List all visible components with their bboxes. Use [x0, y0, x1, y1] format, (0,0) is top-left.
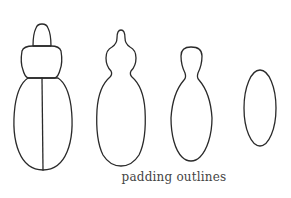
beetle-outline [14, 24, 72, 170]
padded-outline-2 [171, 47, 212, 161]
beetle-elytra-seam [42, 78, 43, 170]
padded-outline-1 [97, 30, 146, 166]
beetle-head [33, 24, 51, 46]
figure-caption: padding outlines [0, 170, 291, 184]
padding-outlines-figure [0, 0, 291, 198]
beetle-prothorax [21, 46, 61, 78]
padded-outline-3 [244, 70, 276, 146]
